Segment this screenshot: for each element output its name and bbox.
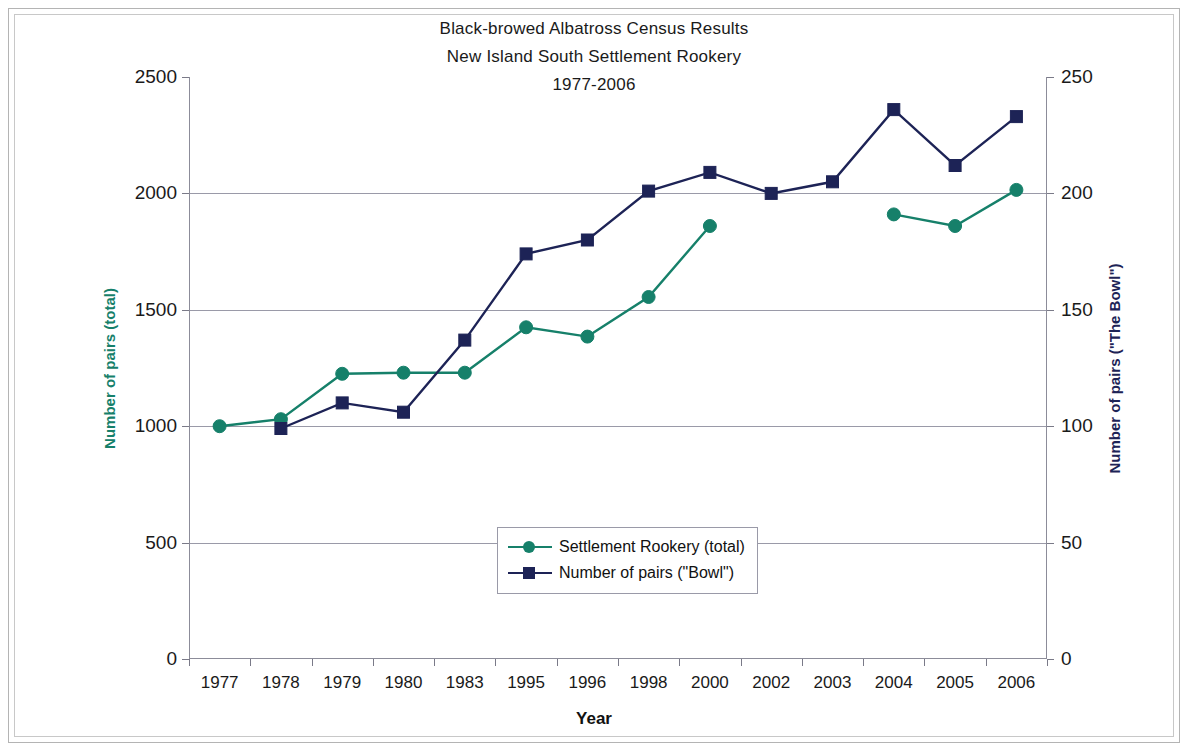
data-point-marker[interactable] [397,366,410,379]
y-axis-right-tick-label: 150 [1061,299,1093,321]
x-axis-tick-label: 1996 [568,673,606,693]
data-point-marker[interactable] [520,321,533,334]
data-point-marker[interactable] [949,220,962,233]
data-point-marker[interactable] [275,423,287,435]
x-axis-tick [618,659,619,666]
x-axis-tick [863,659,864,666]
y-axis-left-tick-label: 2500 [135,66,177,88]
y-axis-right-tick [1047,426,1054,427]
series-line [281,110,1017,429]
legend-swatch [508,540,552,554]
y-axis-left-tick [182,310,189,311]
y-axis-right-tick-label: 200 [1061,182,1093,204]
data-point-marker[interactable] [581,234,593,246]
y-axis-left-tick-label: 1000 [135,415,177,437]
x-axis-tick-label: 1980 [385,673,423,693]
y-axis-left-tick-label: 500 [145,532,177,554]
x-axis-tick-label: 2004 [875,673,913,693]
series-line [220,226,710,426]
legend-circle-icon [523,541,535,553]
x-axis-tick-label: 1979 [323,673,361,693]
x-axis-tick-label: 1983 [446,673,484,693]
y-axis-left-tick [182,77,189,78]
x-axis-tick [495,659,496,666]
y-axis-right-tick-label: 100 [1061,415,1093,437]
x-axis-tick-label: 1977 [201,673,239,693]
y-axis-left-title: Number of pairs (total) [100,288,117,449]
legend-square-icon [523,567,535,579]
data-point-marker[interactable] [827,176,839,188]
x-axis-tick [679,659,680,666]
x-axis-tick-label: 1995 [507,673,545,693]
x-axis-tick-label: 2002 [752,673,790,693]
data-point-marker[interactable] [1010,111,1022,123]
y-axis-right-tick-label: 250 [1061,66,1093,88]
data-point-marker[interactable] [704,166,716,178]
y-axis-right-tick [1047,659,1054,660]
chart-title-line-2: New Island South Settlement Rookery [9,43,1179,71]
x-axis-tick [373,659,374,666]
data-point-marker[interactable] [459,334,471,346]
legend-item[interactable]: Number of pairs ("Bowl") [508,560,745,586]
data-point-marker[interactable] [765,187,777,199]
data-point-marker[interactable] [888,104,900,116]
x-axis-tick-label: 1998 [630,673,668,693]
y-axis-left-tick [182,543,189,544]
data-point-marker[interactable] [642,291,655,304]
x-axis-tick [986,659,987,666]
data-point-marker[interactable] [398,406,410,418]
chart-legend[interactable]: Settlement Rookery (total)Number of pair… [497,527,758,594]
x-axis-tick-label: 2003 [814,673,852,693]
data-point-marker[interactable] [1010,183,1023,196]
y-axis-right-tick [1047,310,1054,311]
y-axis-left-tick [182,659,189,660]
legend-swatch [508,566,552,580]
data-point-marker[interactable] [336,367,349,380]
y-axis-left-tick [182,426,189,427]
data-point-marker[interactable] [458,366,471,379]
y-axis-left-tick-label: 0 [166,648,177,670]
x-axis-tick [312,659,313,666]
data-point-marker[interactable] [336,397,348,409]
x-axis-title: Year [9,709,1179,729]
data-point-marker[interactable] [581,330,594,343]
x-axis-tick-label: 1978 [262,673,300,693]
x-axis-tick [250,659,251,666]
x-axis-tick [924,659,925,666]
plot-area: 05001000150020002500 050100150200250 197… [189,77,1047,659]
x-axis-tick-label: 2006 [997,673,1035,693]
chart-title-line-1: Black-browed Albatross Census Results [9,15,1179,43]
x-axis-tick [434,659,435,666]
x-axis-tick [557,659,558,666]
y-axis-right-tick-label: 0 [1061,648,1072,670]
x-axis-tick-label: 2000 [691,673,729,693]
y-axis-right-tick [1047,77,1054,78]
data-point-marker[interactable] [703,220,716,233]
figure-frame: Black-browed Albatross Census Results Ne… [8,8,1180,743]
x-axis-tick [1047,659,1048,666]
x-axis-tick-label: 2005 [936,673,974,693]
data-point-marker[interactable] [643,185,655,197]
y-axis-left-tick-label: 2000 [135,182,177,204]
y-axis-right-title: Number of pairs ("The Bowl") [1106,263,1123,473]
data-point-marker[interactable] [887,208,900,221]
legend-label: Settlement Rookery (total) [559,538,745,556]
x-axis-tick [741,659,742,666]
y-axis-right-tick [1047,193,1054,194]
data-point-marker[interactable] [213,420,226,433]
y-axis-left-tick-label: 1500 [135,299,177,321]
legend-item[interactable]: Settlement Rookery (total) [508,534,745,560]
y-axis-left-tick [182,193,189,194]
x-axis-tick [802,659,803,666]
y-axis-right-tick-label: 50 [1061,532,1082,554]
x-axis-tick [189,659,190,666]
data-point-marker[interactable] [949,160,961,172]
legend-label: Number of pairs ("Bowl") [559,564,734,582]
y-axis-right-tick [1047,543,1054,544]
data-point-marker[interactable] [520,248,532,260]
